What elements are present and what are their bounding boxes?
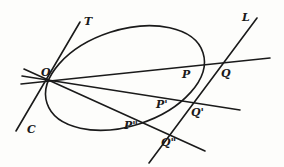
- label-c: C: [27, 123, 36, 136]
- secant-op1q1: [22, 76, 240, 110]
- label-q-double-prime: Q": [161, 136, 176, 149]
- label-p-prime: P': [155, 98, 168, 111]
- label-q: Q: [221, 67, 231, 80]
- secant-op2q2: [24, 69, 205, 151]
- secant-opq: [21, 58, 270, 84]
- label-o: O: [41, 66, 51, 79]
- diagram-canvas: O T L C P Q P' Q' P" Q": [0, 0, 284, 167]
- label-l: L: [241, 11, 250, 24]
- label-p: P: [181, 68, 191, 81]
- label-p-double-prime: P": [123, 119, 138, 132]
- label-t: T: [84, 15, 93, 28]
- conic-secant-diagram: O T L C P Q P' Q' P" Q": [0, 0, 284, 167]
- label-q-prime: Q': [191, 106, 204, 119]
